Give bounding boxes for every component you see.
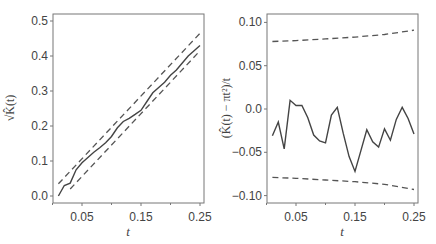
y-tick-label: 0.0 bbox=[245, 102, 262, 116]
right-x-axis-label: t bbox=[340, 224, 344, 239]
x-tick-label: 0.05 bbox=[284, 210, 308, 224]
y-tick-label: −0.05 bbox=[232, 145, 263, 159]
right-y-ticks: 0.100.050.0−0.05−0.10 bbox=[232, 15, 267, 202]
x-tick-label: 0.15 bbox=[129, 210, 153, 224]
left-y-ticks: 0.00.10.20.30.40.5 bbox=[31, 14, 53, 203]
y-tick-label: −0.10 bbox=[232, 189, 263, 203]
right-x-ticks: 0.050.150.25 bbox=[267, 203, 427, 224]
series-upper-envelope bbox=[272, 30, 414, 41]
left-series bbox=[58, 33, 200, 196]
figure: 0.00.10.20.30.40.5 0.050.150.25 t √K̂(t)… bbox=[0, 0, 436, 244]
y-tick-label: 0.10 bbox=[239, 15, 263, 29]
y-tick-label: 0.3 bbox=[31, 84, 48, 98]
left-x-axis-label: t bbox=[126, 224, 130, 239]
left-y-axis-label: √K̂(t) bbox=[3, 95, 17, 122]
y-tick-label: 0.5 bbox=[31, 14, 48, 28]
y-tick-label: 0.2 bbox=[31, 119, 48, 133]
series-upper-envelope bbox=[58, 33, 200, 184]
series-lower-envelope bbox=[70, 51, 200, 189]
right-panel-k-deviation: 0.100.050.0−0.05−0.10 0.050.150.25 t (K̂… bbox=[219, 14, 426, 239]
x-tick-label: 0.25 bbox=[188, 210, 212, 224]
x-tick-label: 0.05 bbox=[70, 210, 94, 224]
x-tick-label: 0.15 bbox=[343, 210, 367, 224]
y-tick-label: 0.1 bbox=[31, 154, 48, 168]
series-lower-envelope bbox=[272, 177, 414, 189]
series-estimate bbox=[58, 46, 200, 197]
y-tick-label: 0.4 bbox=[31, 49, 48, 63]
left-x-ticks: 0.050.150.25 bbox=[53, 203, 213, 224]
x-tick-label: 0.25 bbox=[402, 210, 426, 224]
right-series bbox=[272, 30, 414, 189]
right-y-axis-label: (K̂(t) − πt²)/t bbox=[219, 77, 233, 138]
series-estimate bbox=[272, 100, 414, 171]
left-panel-sqrt-k: 0.00.10.20.30.40.5 0.050.150.25 t √K̂(t) bbox=[3, 14, 212, 239]
y-tick-label: 0.05 bbox=[239, 59, 263, 73]
y-tick-label: 0.0 bbox=[31, 189, 48, 203]
